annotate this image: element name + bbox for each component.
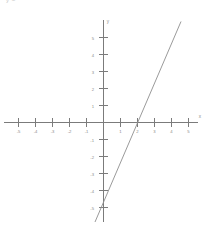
y-tick-label-3: 3 (92, 70, 95, 75)
x-tick-label-1: 1 (119, 129, 122, 134)
graph-figure: y = (0, 0, 207, 227)
y-axis-label: y (107, 19, 110, 24)
x-tick-label--1: -1 (85, 129, 89, 134)
plotted-line-series (95, 22, 181, 223)
x-tick-label-2: 2 (136, 129, 139, 134)
y-tick-label--2: -2 (90, 155, 94, 160)
x-tick-label-5: 5 (187, 129, 190, 134)
x-tick-label-3: 3 (153, 129, 156, 134)
coordinate-plane: -5 -4 -3 -2 -1 1 2 3 4 5 5 4 3 2 1 -1 -2… (0, 0, 207, 227)
x-tick-label-4: 4 (170, 129, 173, 134)
y-tick-label-5: 5 (92, 36, 95, 41)
x-tick-label--3: -3 (51, 129, 55, 134)
x-tick-label--5: -5 (17, 129, 21, 134)
x-tick-label--4: -4 (34, 129, 38, 134)
x-axis-label: x (199, 114, 202, 119)
y-tick-label-4: 4 (92, 53, 95, 58)
y-tick-label--4: -4 (90, 189, 94, 194)
y-tick-label-2: 2 (92, 87, 95, 92)
y-tick-label--5: -5 (90, 206, 94, 211)
corner-note-text: y = (6, 0, 16, 4)
y-tick-label--3: -3 (90, 172, 94, 177)
y-tick-label--1: -1 (90, 138, 94, 143)
x-tick-label--2: -2 (68, 129, 72, 134)
y-tick-label-1: 1 (92, 104, 95, 109)
